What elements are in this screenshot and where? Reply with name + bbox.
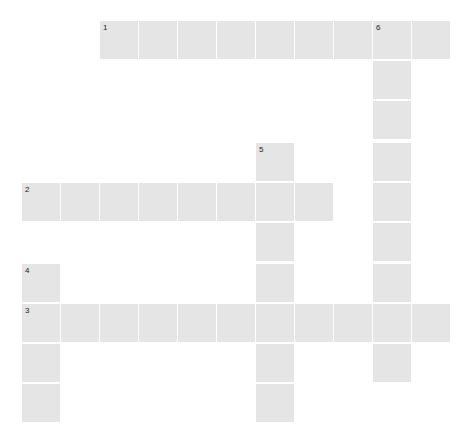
crossword-cell[interactable] xyxy=(178,304,216,342)
letter-input[interactable] xyxy=(373,223,411,261)
letter-input[interactable] xyxy=(100,183,138,221)
crossword-cell[interactable] xyxy=(178,183,216,221)
crossword-cell[interactable] xyxy=(256,384,294,422)
letter-input[interactable] xyxy=(412,304,450,342)
letter-input[interactable] xyxy=(373,143,411,181)
crossword-cell[interactable] xyxy=(256,21,294,59)
crossword-cell[interactable] xyxy=(295,304,333,342)
crossword-cell[interactable] xyxy=(139,183,177,221)
crossword-cell[interactable] xyxy=(256,223,294,261)
crossword-cell[interactable]: 6 xyxy=(373,21,411,59)
letter-input[interactable] xyxy=(256,183,294,221)
letter-input[interactable] xyxy=(373,61,411,99)
crossword-cell[interactable] xyxy=(61,183,99,221)
crossword-cell[interactable] xyxy=(100,183,138,221)
letter-input[interactable] xyxy=(334,304,372,342)
letter-input[interactable] xyxy=(256,384,294,422)
crossword-cell[interactable] xyxy=(373,101,411,139)
crossword-cell[interactable]: 3 xyxy=(22,304,60,342)
letter-input[interactable] xyxy=(61,304,99,342)
crossword-cell[interactable] xyxy=(373,223,411,261)
crossword-cell[interactable] xyxy=(412,21,450,59)
letter-input[interactable] xyxy=(100,21,138,59)
crossword-cell[interactable] xyxy=(256,264,294,302)
letter-input[interactable] xyxy=(178,183,216,221)
letter-input[interactable] xyxy=(256,304,294,342)
letter-input[interactable] xyxy=(295,183,333,221)
crossword-cell[interactable] xyxy=(139,21,177,59)
letter-input[interactable] xyxy=(373,101,411,139)
crossword-cell[interactable] xyxy=(61,304,99,342)
crossword-cell[interactable] xyxy=(373,183,411,221)
letter-input[interactable] xyxy=(295,21,333,59)
crossword-cell[interactable] xyxy=(139,304,177,342)
letter-input[interactable] xyxy=(295,304,333,342)
crossword-cell[interactable] xyxy=(373,304,411,342)
crossword-cell[interactable]: 4 xyxy=(22,264,60,302)
crossword-cell[interactable] xyxy=(217,304,255,342)
crossword-cell[interactable]: 5 xyxy=(256,143,294,181)
letter-input[interactable] xyxy=(217,304,255,342)
crossword-cell[interactable] xyxy=(217,183,255,221)
letter-input[interactable] xyxy=(22,183,60,221)
crossword-cell[interactable] xyxy=(295,183,333,221)
crossword-cell[interactable] xyxy=(373,264,411,302)
letter-input[interactable] xyxy=(256,143,294,181)
crossword-cell[interactable] xyxy=(217,21,255,59)
letter-input[interactable] xyxy=(412,21,450,59)
crossword-cell[interactable]: 2 xyxy=(22,183,60,221)
letter-input[interactable] xyxy=(22,264,60,302)
crossword-cell[interactable] xyxy=(412,304,450,342)
letter-input[interactable] xyxy=(217,183,255,221)
crossword-cell[interactable] xyxy=(256,344,294,382)
letter-input[interactable] xyxy=(22,384,60,422)
letter-input[interactable] xyxy=(139,21,177,59)
crossword-cell[interactable] xyxy=(373,143,411,181)
letter-input[interactable] xyxy=(373,21,411,59)
crossword-cell[interactable] xyxy=(22,344,60,382)
crossword-cell[interactable] xyxy=(373,61,411,99)
letter-input[interactable] xyxy=(373,304,411,342)
letter-input[interactable] xyxy=(256,264,294,302)
letter-input[interactable] xyxy=(334,21,372,59)
letter-input[interactable] xyxy=(256,223,294,261)
letter-input[interactable] xyxy=(178,21,216,59)
letter-input[interactable] xyxy=(373,264,411,302)
letter-input[interactable] xyxy=(100,304,138,342)
letter-input[interactable] xyxy=(256,21,294,59)
letter-input[interactable] xyxy=(178,304,216,342)
crossword-cell[interactable] xyxy=(256,304,294,342)
crossword-cell[interactable] xyxy=(373,344,411,382)
letter-input[interactable] xyxy=(139,183,177,221)
crossword-cell[interactable] xyxy=(22,384,60,422)
crossword-cell[interactable] xyxy=(334,21,372,59)
crossword-cell[interactable] xyxy=(334,304,372,342)
letter-input[interactable] xyxy=(373,344,411,382)
crossword-grid: 162345 xyxy=(0,0,473,434)
crossword-cell[interactable] xyxy=(256,183,294,221)
letter-input[interactable] xyxy=(22,344,60,382)
letter-input[interactable] xyxy=(139,304,177,342)
letter-input[interactable] xyxy=(22,304,60,342)
letter-input[interactable] xyxy=(61,183,99,221)
crossword-cell[interactable]: 1 xyxy=(100,21,138,59)
crossword-cell[interactable] xyxy=(295,21,333,59)
letter-input[interactable] xyxy=(373,183,411,221)
crossword-cell[interactable] xyxy=(178,21,216,59)
letter-input[interactable] xyxy=(217,21,255,59)
letter-input[interactable] xyxy=(256,344,294,382)
crossword-cell[interactable] xyxy=(100,304,138,342)
